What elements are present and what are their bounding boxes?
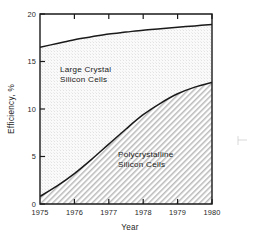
x-tick-label: 1978 (135, 208, 152, 217)
y-tick-label: 5 (32, 152, 36, 161)
plot-area-fills (40, 24, 212, 204)
large-crystal-label-line1: Large Crystal (60, 65, 111, 74)
x-tick-label: 1979 (169, 208, 186, 217)
y-tick-label: 15 (27, 57, 36, 66)
chart-svg: 05101520 197519761977197819791980 Year E… (0, 0, 257, 241)
y-tick-label: 10 (27, 105, 36, 114)
x-axis-title: Year (121, 223, 139, 232)
y-axis-title: Efficiency, % (7, 84, 16, 134)
y-tick-label: 20 (27, 10, 36, 19)
x-tick-label: 1977 (100, 208, 117, 217)
large-crystal-label-line2: Silicon Cells (60, 75, 107, 84)
x-tick-label: 1976 (66, 208, 83, 217)
polycrystalline-label-line2: Silicon Cells (118, 160, 165, 169)
x-tick-label: 1980 (203, 208, 220, 217)
polycrystalline-label-line1: Polycrystalline (118, 150, 174, 159)
large-crystal-label: Large Crystal Silicon Cells (60, 65, 111, 84)
x-tick-label: 1975 (31, 208, 48, 217)
chart-figure: 05101520 197519761977197819791980 Year E… (0, 0, 257, 241)
